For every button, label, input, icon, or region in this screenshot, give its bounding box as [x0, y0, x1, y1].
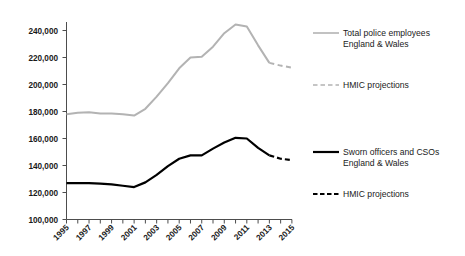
legend-label-1: HMIC projections	[343, 80, 409, 90]
series-line-3	[269, 155, 292, 160]
y-tick-label: 200,000	[28, 81, 58, 90]
legend-label-2-line2: England & Wales	[343, 158, 409, 168]
x-tick-label: 1997	[74, 223, 94, 243]
x-tick-label: 2003	[142, 223, 162, 243]
x-axis: 1995199719992001200320052007200920112013…	[52, 220, 297, 243]
series-line-2	[67, 138, 270, 187]
y-tick-label: 180,000	[28, 108, 58, 117]
x-tick-label: 2011	[232, 223, 251, 242]
x-tick-label: 2015	[277, 223, 297, 243]
legend-label-2: Sworn officers and CSOs	[343, 147, 439, 157]
x-tick-label: 2005	[164, 223, 184, 243]
y-axis: 100,000120,000140,000160,000180,000200,0…	[28, 22, 66, 225]
y-tick-label: 220,000	[28, 54, 58, 63]
y-tick-label: 160,000	[28, 135, 58, 144]
x-tick-label: 2009	[209, 223, 229, 243]
legend-label-3: HMIC projections	[343, 189, 409, 199]
y-tick-label: 120,000	[28, 189, 58, 198]
x-tick-label: 2007	[187, 223, 207, 243]
x-axis-ticks: 1995199719992001200320052007200920112013…	[52, 220, 297, 243]
legend-label-0: Total police employees	[343, 28, 430, 38]
y-tick-label: 100,000	[28, 216, 58, 225]
series-line-0	[67, 24, 270, 115]
legend-label-0-line2: England & Wales	[343, 39, 409, 49]
x-tick-label: 1995	[52, 223, 72, 243]
x-tick-label: 2001	[119, 223, 139, 243]
y-tick-label: 140,000	[28, 162, 58, 171]
y-tick-label: 240,000	[28, 27, 58, 36]
series-line-1	[269, 63, 292, 68]
x-tick-label: 1999	[97, 223, 117, 243]
chart-legend: Total police employeesEngland & WalesHMI…	[313, 28, 439, 199]
y-axis-ticks: 100,000120,000140,000160,000180,000200,0…	[28, 27, 66, 225]
chart-container: 100,000120,000140,000160,000180,000200,0…	[0, 0, 465, 256]
x-tick-label: 2013	[255, 223, 275, 243]
line-chart: 100,000120,000140,000160,000180,000200,0…	[0, 0, 465, 256]
data-series-group	[67, 24, 292, 187]
